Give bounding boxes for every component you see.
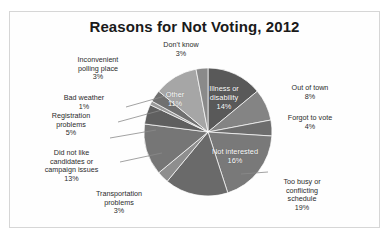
pie-label-too-busy: Too busy or conflicting schedule 19%: [270, 178, 334, 212]
pie-label-out-of-town: Out of town 8%: [278, 84, 342, 101]
pie-label-other: Other 11%: [156, 91, 194, 109]
pie-label-transportation-problems: Transportation problems 3%: [82, 190, 156, 216]
pie-label-illness-or-disability: Illness or disability 14%: [197, 85, 251, 111]
pie-label-forgot-to-vote: Forgot to vote 4%: [276, 114, 344, 131]
pie-label-inconvenient-polling-place: Inconvenient polling place 3%: [67, 56, 129, 82]
pie-label-registration-problems: Registration problems 5%: [35, 112, 107, 138]
pie-label-dont-know: Don't know 3%: [149, 41, 213, 58]
chart-frame: Reasons for Not Voting, 2012 Don't know …: [9, 11, 380, 228]
pie-label-bad-weather: Bad weather 1%: [52, 94, 116, 111]
pie-label-did-not-like-candidates: Did not like candidates or campaign issu…: [29, 149, 114, 183]
pie-label-not-interested: Not interested 16%: [198, 148, 272, 166]
